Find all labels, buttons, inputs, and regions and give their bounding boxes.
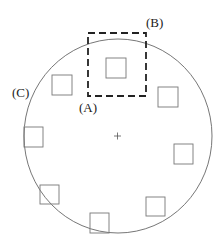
label-b: (B) (146, 16, 163, 29)
square (106, 58, 126, 78)
square (146, 197, 165, 216)
label-c: (C) (12, 86, 29, 99)
square (52, 75, 72, 95)
dashed-selection-box (88, 33, 146, 96)
square (158, 87, 178, 107)
center-cross-mark (114, 133, 121, 140)
squares (24, 58, 193, 233)
square (174, 144, 193, 164)
square (24, 127, 43, 147)
diagram-canvas (0, 0, 223, 252)
square (90, 213, 109, 233)
label-a: (A) (79, 101, 97, 114)
